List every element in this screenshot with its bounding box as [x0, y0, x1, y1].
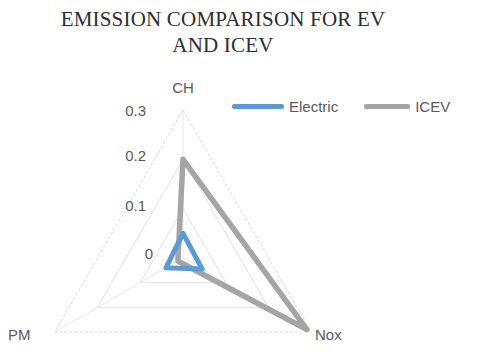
radar-series-group — [166, 159, 307, 329]
vertex-label-ch: CH — [172, 79, 194, 96]
radial-tick-0.3: 0.3 — [125, 102, 146, 119]
radar-spokes — [55, 110, 311, 332]
radar-chart-figure: EMISSION COMPARISON FOR EV AND ICEV Elec… — [0, 0, 484, 357]
vertex-label-pm: PM — [8, 326, 31, 343]
radar-vertex-labels: CHNoxPM — [8, 79, 342, 343]
radar-radial-ticks: 0.30.20.10 — [125, 102, 153, 262]
radar-plot-area: 0.30.20.10 CHNoxPM — [0, 0, 484, 357]
radial-tick-0.1: 0.1 — [125, 197, 146, 214]
radial-tick-0: 0 — [145, 245, 153, 262]
vertex-label-nox: Nox — [315, 326, 342, 343]
radial-tick-0.2: 0.2 — [125, 147, 146, 164]
